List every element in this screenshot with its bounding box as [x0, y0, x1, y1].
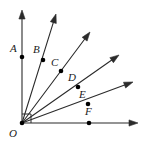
ray-OE-shaft — [22, 85, 126, 123]
label-b: B — [33, 44, 40, 55]
point-c — [59, 69, 64, 74]
ray-OD-arrowhead-icon — [110, 55, 119, 63]
ray-OB-shaft — [22, 21, 54, 123]
ray-OF-arrowhead-icon — [129, 120, 138, 126]
label-d: D — [68, 72, 76, 83]
rays-group — [19, 10, 138, 126]
label-o-vertex: O — [9, 128, 17, 139]
label-f: F — [85, 106, 92, 117]
ray-OA-arrowhead-icon — [19, 10, 25, 19]
point-b — [41, 58, 46, 63]
geometry-figure: ABCDEFO — [0, 0, 143, 142]
point-o — [20, 121, 25, 126]
ray-OB-arrowhead-icon — [50, 14, 56, 24]
point-f — [87, 121, 92, 126]
label-c: C — [51, 57, 58, 68]
label-e: E — [79, 89, 86, 100]
ray-OD-shaft — [22, 59, 113, 123]
point-a — [20, 55, 25, 60]
label-a: A — [10, 43, 17, 54]
ray-OC-arrowhead-icon — [82, 32, 90, 41]
ray-OE-arrowhead-icon — [123, 82, 133, 88]
